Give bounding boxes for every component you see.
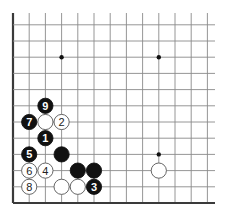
white-stone [38, 114, 53, 129]
star-point [157, 152, 161, 156]
white-stone [70, 179, 85, 194]
white-stone-8: 8 [22, 179, 37, 194]
move-number: 4 [42, 165, 48, 177]
move-number: 3 [91, 181, 97, 193]
move-number: 6 [26, 165, 32, 177]
star-point [59, 55, 63, 59]
white-stone [54, 179, 69, 194]
black-stone-3: 3 [86, 179, 101, 194]
move-number: 9 [42, 100, 48, 112]
white-stone-4: 4 [38, 163, 53, 178]
white-stone-6: 6 [22, 163, 37, 178]
move-number: 2 [59, 116, 65, 128]
move-number: 8 [26, 181, 32, 193]
move-number: 5 [26, 148, 32, 160]
move-number: 1 [42, 132, 48, 144]
star-point [157, 55, 161, 59]
black-stone [70, 163, 85, 178]
black-stone-5: 5 [22, 147, 37, 162]
black-stone-1: 1 [38, 131, 53, 146]
black-stone [86, 163, 101, 178]
go-board: 972156483 [0, 0, 227, 215]
move-number: 7 [26, 116, 32, 128]
black-stone-7: 7 [22, 114, 37, 129]
white-stone [151, 163, 166, 178]
white-stone-2: 2 [54, 114, 69, 129]
black-stone-9: 9 [38, 98, 53, 113]
black-stone [54, 147, 69, 162]
